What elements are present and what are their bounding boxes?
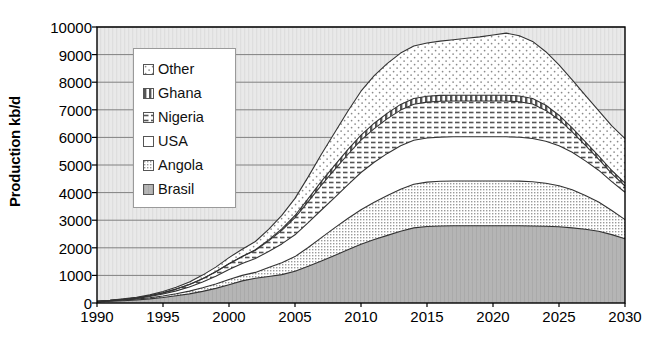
- legend-item-label: USA: [158, 134, 188, 149]
- legend-item[interactable]: Angola: [134, 153, 235, 177]
- legend-item[interactable]: Nigeria: [134, 105, 235, 129]
- blank-white-swatch-icon: [143, 136, 154, 147]
- plot-area-svg: [0, 0, 658, 347]
- horizontal-dash-swatch-icon: [143, 112, 154, 123]
- vertical-stripe-swatch-icon: [143, 88, 154, 99]
- solid-gray-swatch-icon: [143, 184, 154, 195]
- legend-item-label: Ghana: [158, 86, 202, 101]
- legend-item[interactable]: Brasil: [134, 177, 235, 201]
- stacked-area-chart: Production kb/d 010002000300040005000600…: [0, 0, 658, 347]
- legend-item[interactable]: USA: [134, 129, 235, 153]
- chart-legend: OtherGhanaNigeriaUSAAngolaBrasil: [133, 48, 236, 208]
- legend-item-label: Brasil: [158, 182, 194, 197]
- legend-item-label: Nigeria: [158, 110, 204, 125]
- sparse-dots-swatch-icon: [143, 64, 154, 75]
- fine-dots-swatch-icon: [143, 160, 154, 171]
- legend-item[interactable]: Ghana: [134, 81, 235, 105]
- legend-item-label: Other: [158, 62, 194, 77]
- legend-item-label: Angola: [158, 158, 203, 173]
- legend-item[interactable]: Other: [134, 57, 235, 81]
